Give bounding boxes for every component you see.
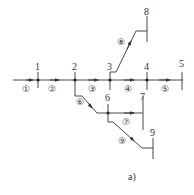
node-label-7: 7 — [140, 91, 145, 102]
segment-label-6: ⑥ — [76, 97, 84, 107]
node-label-6: 6 — [105, 92, 110, 103]
node-4-dot — [145, 78, 148, 81]
node-3-dot — [108, 78, 111, 81]
node-label-2: 2 — [72, 61, 77, 72]
segment-label-3: ③ — [88, 84, 96, 94]
segment-label-7: ⑦ — [122, 117, 130, 127]
figure-caption: a) — [128, 171, 136, 183]
segment-label-2: ② — [48, 84, 56, 94]
node-label-3: 3 — [107, 61, 112, 72]
segment-label-5: ⑤ — [161, 84, 169, 94]
branch-9-line — [108, 113, 153, 159]
node-label-5: 5 — [179, 58, 184, 69]
segment-label-1: ① — [22, 84, 30, 94]
segment-label-4: ④ — [124, 84, 132, 94]
node-label-9: 9 — [150, 127, 155, 138]
node-1-dot — [36, 78, 39, 81]
branch-8-line — [110, 16, 147, 72]
node-label-4: 4 — [144, 61, 149, 72]
segment-label-9: ⑨ — [118, 136, 126, 146]
segment-label-8: ⑧ — [117, 37, 125, 47]
node-label-1: 1 — [35, 61, 40, 72]
pipe-network-diagram: 1 2 3 4 5 6 7 8 9 ① ② ③ ④ ⑤ ⑥ ⑦ ⑧ ⑨ a) — [0, 0, 194, 195]
branch-6-line — [75, 80, 143, 130]
node-label-8: 8 — [144, 6, 149, 17]
